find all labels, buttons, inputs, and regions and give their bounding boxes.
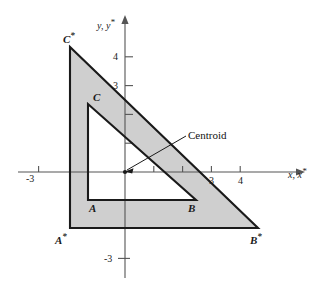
x-axis-label-text: x, x xyxy=(288,169,302,180)
x-axis-star-glyph: * xyxy=(302,166,307,176)
y-tick-label-3: 3 xyxy=(113,81,118,91)
y-axis-arrowhead xyxy=(121,15,128,24)
y-axis-label-text: y, y xyxy=(97,20,110,31)
x-axis-label: x, x* xyxy=(288,167,306,180)
vertex-label-a: A xyxy=(89,203,96,214)
y-tick-label--3: -3 xyxy=(104,254,112,264)
x-tick-label--3: -3 xyxy=(26,174,34,184)
vertex-label-b-star: B* xyxy=(250,232,262,246)
geometry-diagram-svg xyxy=(0,0,324,298)
y-axis-label: y, y* xyxy=(97,18,115,31)
b-star-glyph: * xyxy=(257,231,262,241)
a-star-glyph: * xyxy=(62,231,67,241)
vertex-label-a-star: A* xyxy=(55,232,67,246)
y-tick-label-4: 4 xyxy=(113,52,118,62)
centroid-label: Centroid xyxy=(188,130,227,141)
c-star-glyph: * xyxy=(70,30,75,40)
vertex-label-b: B xyxy=(188,203,195,214)
vertex-label-c: C xyxy=(93,92,100,103)
x-tick-label-3: 3 xyxy=(209,176,214,186)
centroid-dot xyxy=(123,170,127,174)
vertex-label-c-star: C* xyxy=(63,31,75,45)
y-axis-star-glyph: * xyxy=(110,17,115,27)
figure-canvas: y, y* x, x* -3 3 4 4 3 -3 C* A* B* C A B… xyxy=(0,0,324,298)
x-tick-label-4: 4 xyxy=(238,176,243,186)
